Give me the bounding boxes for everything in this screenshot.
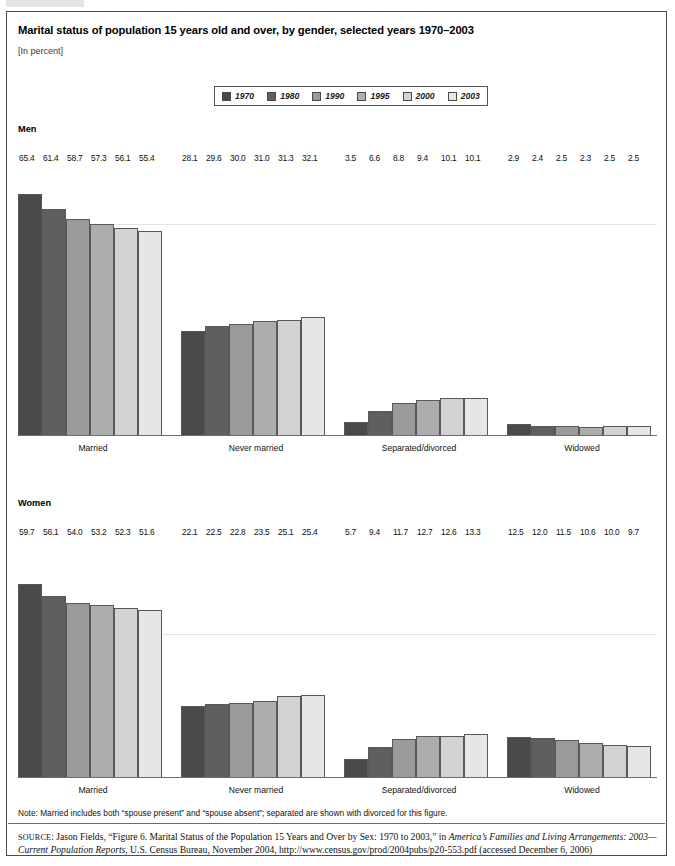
bar-1970: 12.5 — [507, 537, 531, 777]
bar-1970: 59.7 — [18, 537, 42, 777]
bar-value-label: 12.0 — [532, 528, 548, 536]
bar-2003: 25.4 — [301, 537, 325, 777]
page-edge-artifact — [6, 0, 84, 7]
figure-subtitle: [In percent] — [18, 46, 63, 56]
bar-value-label: 56.1 — [43, 528, 59, 536]
bar-1980: 9.4 — [368, 537, 392, 777]
category-label: Separated/divorced — [382, 785, 457, 795]
bar-rect: 23.5 — [253, 701, 277, 777]
category-label: Separated/divorced — [382, 443, 457, 453]
bar-1995: 31.0 — [253, 163, 277, 435]
bar-value-label: 31.0 — [254, 154, 270, 162]
bar-group-married: 65.461.458.757.356.155.4 — [18, 163, 168, 435]
bar-value-label: 61.4 — [43, 154, 59, 162]
bar-value-label: 65.4 — [19, 154, 35, 162]
bar-value-label: 12.6 — [441, 528, 457, 536]
bar-1970: 2.9 — [507, 163, 531, 435]
bar-2003: 2.5 — [627, 163, 651, 435]
bar-1995: 9.4 — [416, 163, 440, 435]
bar-rect: 12.0 — [531, 738, 555, 777]
bar-value-label: 56.1 — [115, 154, 131, 162]
legend-item-2003: 2003 — [448, 92, 480, 101]
bar-value-label: 12.7 — [417, 528, 433, 536]
bar-value-label: 2.9 — [508, 154, 519, 162]
bar-1990: 8.8 — [392, 163, 416, 435]
panel-label-men: Men — [18, 124, 36, 134]
bar-value-label: 32.1 — [302, 154, 318, 162]
bar-1980: 6.6 — [368, 163, 392, 435]
bar-1990: 22.8 — [229, 537, 253, 777]
bar-1995: 23.5 — [253, 537, 277, 777]
bar-rect: 53.2 — [90, 605, 114, 777]
category-label: Never married — [229, 443, 283, 453]
bar-value-label: 59.7 — [19, 528, 35, 536]
bar-1990: 2.5 — [555, 163, 579, 435]
figure-title: Marital status of population 15 years ol… — [18, 24, 474, 36]
bar-value-label: 58.7 — [67, 154, 83, 162]
bar-2003: 32.1 — [301, 163, 325, 435]
legend-swatch-icon-1980 — [267, 92, 276, 101]
bar-rect: 31.0 — [253, 321, 277, 435]
bar-1990: 58.7 — [66, 163, 90, 435]
bar-value-label: 2.5 — [628, 154, 639, 162]
bar-rect: 10.1 — [440, 398, 464, 435]
bar-value-label: 13.3 — [465, 528, 481, 536]
axis-baseline — [18, 777, 657, 778]
bar-value-label: 5.7 — [345, 528, 356, 536]
bar-value-label: 9.4 — [417, 154, 428, 162]
bar-value-label: 31.3 — [278, 154, 294, 162]
legend-item-1970: 1970 — [222, 92, 254, 101]
bar-value-label: 57.3 — [91, 154, 107, 162]
bar-value-label: 52.3 — [115, 528, 131, 536]
bar-rect: 31.3 — [277, 320, 301, 435]
bar-1970: 3.5 — [344, 163, 368, 435]
bar-1980: 56.1 — [42, 537, 66, 777]
bar-value-label: 10.1 — [441, 154, 457, 162]
bar-rect: 22.1 — [181, 706, 205, 777]
bar-rect: 2.9 — [507, 424, 531, 435]
chart-panel-women: 59.756.154.053.252.351.6Married22.122.52… — [18, 538, 657, 778]
legend-label: 1990 — [325, 92, 344, 101]
category-label: Widowed — [564, 785, 599, 795]
bar-value-label: 2.4 — [532, 154, 543, 162]
bar-value-label: 9.4 — [369, 528, 380, 536]
bar-rect: 58.7 — [66, 219, 90, 435]
bar-value-label: 2.3 — [580, 154, 591, 162]
bar-2000: 25.1 — [277, 537, 301, 777]
bar-rect: 10.0 — [603, 745, 627, 777]
legend-swatch-icon-2000 — [403, 92, 412, 101]
bar-rect: 2.3 — [579, 427, 603, 435]
legend-label: 1995 — [370, 92, 389, 101]
bar-value-label: 29.6 — [206, 154, 222, 162]
bar-value-label: 6.6 — [369, 154, 380, 162]
bar-2003: 10.1 — [464, 163, 488, 435]
bar-group-widowed: 12.512.011.510.610.09.7 — [507, 537, 657, 777]
figure-note: Note: Married includes both “spouse pres… — [18, 808, 447, 818]
bar-group-separated-divorced: 5.79.411.712.712.613.3 — [344, 537, 494, 777]
legend-swatch-icon-1995 — [357, 92, 366, 101]
bar-2000: 56.1 — [114, 163, 138, 435]
bar-rect: 12.7 — [416, 736, 440, 777]
bar-1995: 2.3 — [579, 163, 603, 435]
bar-1995: 57.3 — [90, 163, 114, 435]
bar-rect: 54.0 — [66, 603, 90, 777]
bar-rect: 8.8 — [392, 403, 416, 435]
bar-rect: 2.4 — [531, 426, 555, 435]
bar-2000: 2.5 — [603, 163, 627, 435]
bar-rect: 65.4 — [18, 194, 42, 435]
bar-rect: 59.7 — [18, 584, 42, 777]
bar-value-label: 10.1 — [465, 154, 481, 162]
bar-rect: 11.5 — [555, 740, 579, 777]
bar-1970: 65.4 — [18, 163, 42, 435]
bar-rect: 2.5 — [603, 426, 627, 435]
bar-rect: 28.1 — [181, 331, 205, 435]
bar-rect: 22.5 — [205, 704, 229, 777]
bar-rect: 12.5 — [507, 737, 531, 777]
bar-value-label: 11.7 — [393, 528, 408, 536]
bar-value-label: 2.5 — [556, 154, 567, 162]
bar-rect: 22.8 — [229, 703, 253, 777]
figure-frame: Marital status of population 15 years ol… — [6, 11, 667, 856]
bar-value-label: 12.5 — [508, 528, 524, 536]
bar-1980: 22.5 — [205, 537, 229, 777]
bar-2003: 55.4 — [138, 163, 162, 435]
